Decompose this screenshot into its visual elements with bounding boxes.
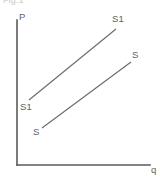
supply-curve-s (42, 62, 131, 128)
curve-label-s-upper-right: S (132, 50, 138, 60)
figure-canvas (0, 0, 160, 178)
supply-curve-figure: Fig.1 P q S1 S S1 S (0, 0, 160, 178)
y-axis-label: P (19, 12, 25, 22)
curve-label-s1-lower-left: S1 (20, 102, 32, 112)
curve-label-s-lower-left: S (33, 127, 39, 137)
supply-curve-s1 (29, 29, 116, 100)
x-axis-label: q (151, 165, 156, 175)
curve-label-s1-upper-right: S1 (112, 14, 124, 24)
